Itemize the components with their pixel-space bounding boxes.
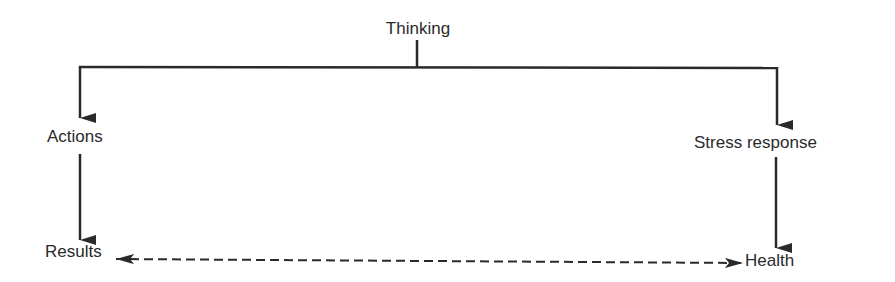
node-stress-response: Stress response [694, 133, 817, 152]
diagram-canvas: Thinking Actions Stress response Results… [0, 0, 895, 282]
thinking-flow-diagram: Thinking Actions Stress response Results… [0, 0, 895, 282]
node-health: Health [745, 251, 794, 270]
node-results: Results [45, 242, 102, 261]
branch-bar-line [79, 67, 778, 68]
node-thinking: Thinking [386, 19, 450, 38]
dashed-arrow-results-health [116, 259, 743, 263]
node-actions: Actions [47, 127, 103, 146]
